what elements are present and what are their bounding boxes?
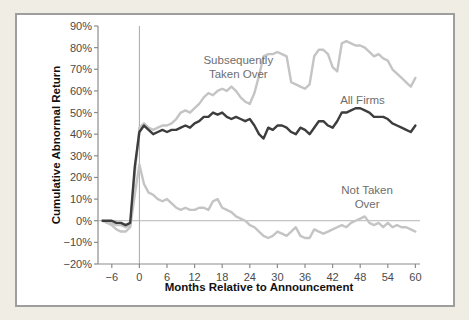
page-background: { "page": { "background_color": "#f0ede5…	[0, 0, 469, 320]
x-tick-label: 18	[216, 272, 228, 283]
x-tick-label: 24	[244, 272, 256, 283]
label-not-taken-line1: Not Taken	[341, 184, 393, 196]
y-tick-label: −10%	[64, 237, 92, 248]
label-subsequently-line1: Subsequently	[203, 54, 273, 66]
label-not-taken-line2: Over	[355, 198, 380, 210]
y-tick-label: 90%	[70, 21, 92, 32]
label-all-firms: All Firms	[340, 92, 385, 106]
x-tick-label: −6	[106, 272, 119, 283]
y-tick-label: 30%	[70, 150, 92, 161]
chart-panel: Cumulative Abnormal Return Months Relati…	[15, 13, 455, 307]
y-tick-label: −20%	[64, 259, 92, 270]
x-tick-label: 36	[299, 272, 311, 283]
label-all-firms-line1: All Firms	[340, 93, 385, 105]
y-tick-label: 0%	[76, 215, 92, 226]
y-tick-label: 10%	[70, 194, 92, 205]
label-subsequently-line2: Taken Over	[209, 68, 268, 80]
x-tick-label: 48	[354, 272, 366, 283]
x-tick-label: 54	[382, 272, 394, 283]
x-tick-label: 6	[164, 272, 170, 283]
y-axis-title: Cumulative Abnormal Return	[50, 66, 62, 225]
x-tick-label: 42	[326, 272, 338, 283]
y-tick-label: 50%	[70, 107, 92, 118]
x-tick-label: 12	[188, 272, 200, 283]
y-tick-label: 70%	[70, 64, 92, 75]
x-tick-label: 30	[271, 272, 283, 283]
y-tick-label: 40%	[70, 129, 92, 140]
label-subsequently-taken-over: Subsequently Taken Over	[203, 53, 273, 82]
y-tick-label: 80%	[70, 42, 92, 53]
y-tick-label: 20%	[70, 172, 92, 183]
x-tick-label: 0	[136, 272, 142, 283]
x-tick-label: 60	[409, 272, 421, 283]
y-tick-label: 60%	[70, 85, 92, 96]
label-not-taken-over: Not Taken Over	[341, 183, 393, 212]
